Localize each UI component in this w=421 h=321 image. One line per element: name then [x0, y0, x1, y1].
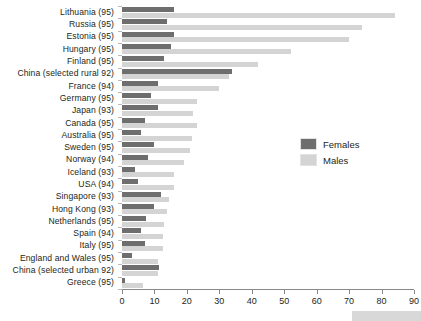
category-axis-labels: Lithuania (95)Russia (95)Estonia (95)Hun… [0, 6, 118, 289]
bar-males [122, 172, 174, 177]
bar-males [122, 99, 197, 104]
bar-males [122, 160, 184, 165]
chart-legend: FemalesMales [300, 138, 400, 170]
bar-females [122, 265, 159, 270]
x-axis-tick [414, 290, 415, 294]
bar-females [122, 278, 125, 283]
bar-males [122, 37, 349, 42]
bar-females [122, 81, 158, 86]
legend-label: Females [323, 139, 359, 150]
bar-group [122, 105, 414, 117]
x-axis-tick-label: 10 [149, 296, 159, 306]
category-label: Estonia (95) [0, 31, 118, 43]
bar-males [122, 74, 229, 79]
bar-males [122, 86, 219, 91]
bar-group [122, 204, 414, 216]
bar-males [122, 148, 190, 153]
bar-females [122, 155, 148, 160]
bar-females [122, 118, 145, 123]
x-axis-tick [252, 290, 253, 294]
category-label: Norway (94) [0, 154, 118, 166]
bar-group [122, 69, 414, 81]
bar-females [122, 228, 141, 233]
category-label: China (selected urban 92) [0, 264, 118, 276]
x-axis-tick-label: 50 [279, 296, 289, 306]
bar-group [122, 241, 414, 253]
bar-group [122, 44, 414, 56]
bar-group [122, 93, 414, 105]
legend-item: Females [300, 138, 400, 150]
x-axis-tick [122, 290, 123, 294]
category-label: Iceland (93) [0, 166, 118, 178]
bar-group [122, 192, 414, 204]
legend-item: Males [300, 154, 400, 166]
legend-swatch [300, 154, 317, 166]
x-axis-tick [219, 290, 220, 294]
category-label: Hong Kong (93) [0, 203, 118, 215]
legend-label: Males [323, 155, 348, 166]
bar-males [122, 123, 197, 128]
bar-males [122, 197, 169, 202]
bar-females [122, 179, 138, 184]
bar-females [122, 167, 135, 172]
bar-males [122, 136, 192, 141]
category-label: Japan (93) [0, 104, 118, 116]
bar-males [122, 209, 167, 214]
bar-females [122, 7, 174, 12]
bar-females [122, 216, 146, 221]
x-axis-tick-label: 60 [312, 296, 322, 306]
bar-females [122, 253, 132, 258]
category-label: Finland (95) [0, 55, 118, 67]
category-label: Russia (95) [0, 18, 118, 30]
category-label: Netherlands (95) [0, 215, 118, 227]
category-label: Italy (95) [0, 240, 118, 252]
category-label: Australia (95) [0, 129, 118, 141]
bar-group [122, 81, 414, 93]
bar-males [122, 246, 163, 251]
bar-group [122, 265, 414, 277]
bar-females [122, 241, 145, 246]
page-corner-artifact [352, 311, 421, 321]
x-axis-tick [317, 290, 318, 294]
bar-females [122, 105, 158, 110]
category-label: Lithuania (95) [0, 6, 118, 18]
bar-females [122, 19, 167, 24]
bar-females [122, 130, 141, 135]
bar-males [122, 25, 362, 30]
bar-females [122, 44, 171, 49]
x-axis-tick-label: 0 [119, 296, 124, 306]
bar-group [122, 32, 414, 44]
category-label: Greece (95) [0, 277, 118, 289]
legend-swatch [300, 138, 317, 150]
bar-group [122, 216, 414, 228]
bar-group [122, 56, 414, 68]
bar-females [122, 56, 164, 61]
x-axis-tick-label: 70 [344, 296, 354, 306]
category-label: USA (94) [0, 178, 118, 190]
category-label: Spain (94) [0, 227, 118, 239]
bar-group [122, 179, 414, 191]
bar-females [122, 32, 174, 37]
x-axis-tick-label: 20 [182, 296, 192, 306]
category-label: England and Wales (95) [0, 252, 118, 264]
bar-group [122, 253, 414, 265]
bar-males [122, 259, 158, 264]
x-axis-tick-label: 30 [214, 296, 224, 306]
category-label: Canada (95) [0, 117, 118, 129]
category-label: China (selected rural 92) [0, 67, 118, 79]
category-label: Germany (95) [0, 92, 118, 104]
bar-males [122, 185, 174, 190]
x-axis-tick [284, 290, 285, 294]
bar-males [122, 283, 143, 288]
bar-males [122, 49, 291, 54]
bar-females [122, 93, 151, 98]
bar-group [122, 7, 414, 19]
x-axis-tick [349, 290, 350, 294]
bar-group [122, 118, 414, 130]
bar-chart: Lithuania (95)Russia (95)Estonia (95)Hun… [0, 0, 421, 321]
bar-group [122, 228, 414, 240]
x-axis-line [122, 289, 414, 290]
bar-males [122, 111, 193, 116]
bar-females [122, 192, 161, 197]
x-axis-tick-label: 90 [409, 296, 419, 306]
